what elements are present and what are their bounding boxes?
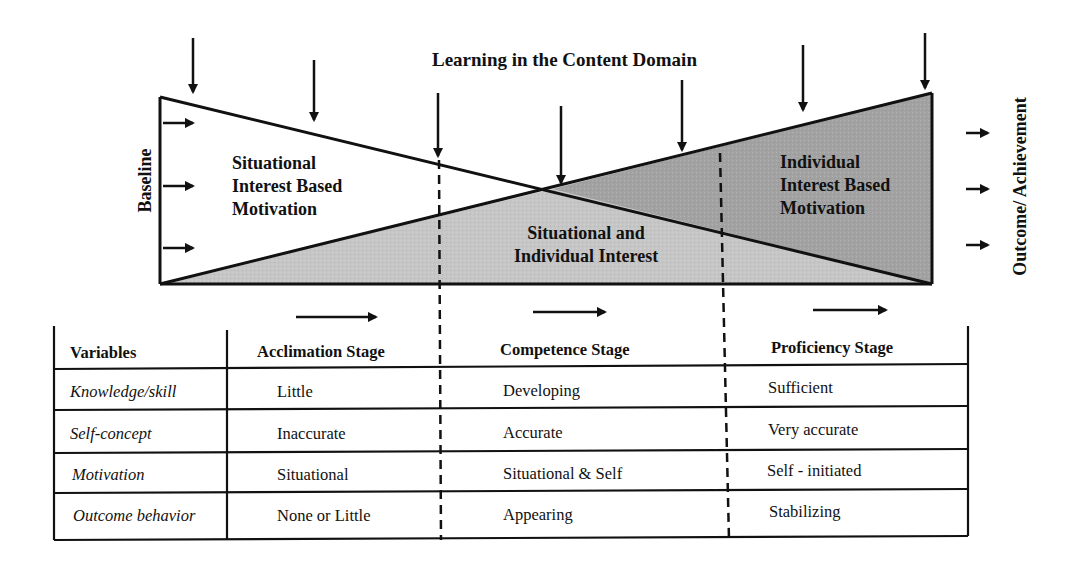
region-label-line: Motivation: [232, 198, 342, 221]
diagram-title: Learning in the Content Domain: [432, 49, 697, 71]
baseline-label: Baseline: [135, 141, 156, 221]
table-cell-acclimation: Little: [277, 382, 313, 402]
situational-region-label: Situational Interest Based Motivation: [232, 152, 342, 221]
table-cell-variable: Knowledge/skill: [70, 382, 176, 402]
region-label-line: Situational: [232, 152, 342, 175]
table-header-competence: Competence Stage: [500, 340, 630, 360]
region-label-line: Interest Based: [232, 175, 342, 198]
table-cell-proficiency: Sufficient: [768, 378, 833, 398]
table-cell-proficiency: Very accurate: [768, 420, 858, 440]
table-cell-acclimation: None or Little: [277, 506, 370, 526]
table-header-acclimation: Acclimation Stage: [257, 342, 385, 362]
table-cell-acclimation: Inaccurate: [277, 424, 346, 444]
table-header-variables: Variables: [70, 343, 136, 363]
region-label-line: Individual Interest: [514, 245, 658, 268]
table-cell-competence: Appearing: [503, 505, 573, 525]
table-cell-competence: Accurate: [503, 423, 563, 443]
table-cell-acclimation: Situational: [277, 465, 349, 485]
region-label-line: Individual: [780, 151, 890, 174]
region-label-line: Situational and: [514, 222, 658, 245]
table-cell-proficiency: Self - initiated: [767, 461, 861, 481]
stage-arrows: [296, 310, 886, 317]
table-cell-competence: Situational & Self: [503, 464, 622, 484]
region-label-line: Interest Based: [780, 174, 890, 197]
table-cell-variable: Self-concept: [70, 424, 152, 444]
table-header-proficiency: Proficiency Stage: [771, 338, 893, 358]
table-cell-proficiency: Stabilizing: [769, 502, 841, 522]
outcome-achievement-label: Outcome/ Achievement: [1010, 87, 1031, 287]
individual-region-label: Individual Interest Based Motivation: [780, 151, 890, 220]
table-cell-variable: Outcome behavior: [73, 506, 195, 526]
table-cell-competence: Developing: [503, 381, 580, 401]
learning-diagram: [0, 0, 1067, 570]
region-label-line: Motivation: [780, 197, 890, 220]
table-cell-variable: Motivation: [72, 465, 144, 485]
mixed-region-label: Situational and Individual Interest: [514, 222, 658, 268]
outcome-arrows: [966, 133, 988, 245]
baseline-arrows: [163, 123, 193, 248]
